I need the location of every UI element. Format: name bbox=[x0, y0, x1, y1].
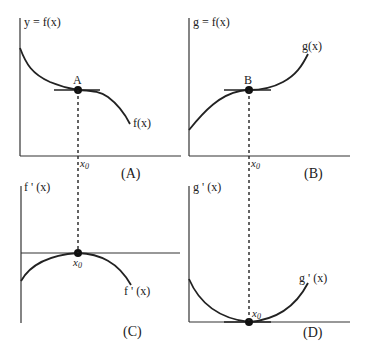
point-b-label: B bbox=[244, 73, 252, 87]
panel-b-curve-label: g(x) bbox=[302, 39, 322, 53]
panel-b-y-label: g = f(x) bbox=[193, 15, 230, 29]
panel-a-caption: (A) bbox=[121, 166, 141, 182]
panel-b: g = f(x) B g(x) x0 (B) bbox=[189, 15, 350, 182]
panel-c: f ' (x) x0 f ' (x) (C) bbox=[21, 180, 180, 340]
panel-a-y-label: y = f(x) bbox=[24, 15, 61, 29]
derivative-diagram: y = f(x) A f(x) x0 (A) g = f(x) B g(x) x… bbox=[0, 0, 367, 355]
panel-a: y = f(x) A f(x) x0 (A) bbox=[20, 15, 181, 182]
panel-c-curve-label: f ' (x) bbox=[124, 284, 150, 298]
panel-a-x0-label: x0 bbox=[79, 157, 89, 171]
panel-a-curve-label: f(x) bbox=[133, 116, 151, 130]
panel-d-caption: (D) bbox=[303, 325, 323, 341]
panel-c-caption: (C) bbox=[123, 324, 142, 340]
panel-c-y-label: f ' (x) bbox=[24, 180, 50, 194]
panel-d-curve-label: g ' (x) bbox=[299, 271, 327, 285]
panel-b-x0-label: x0 bbox=[250, 157, 260, 171]
panel-c-x0-label: x0 bbox=[72, 256, 82, 270]
panel-d-x0-label: x0 bbox=[251, 307, 261, 321]
panel-d: g ' (x) x0 g ' (x) (D) bbox=[189, 180, 350, 341]
point-a-label: A bbox=[73, 73, 82, 87]
panel-d-y-label: g ' (x) bbox=[193, 180, 221, 194]
panel-b-caption: (B) bbox=[304, 166, 323, 182]
